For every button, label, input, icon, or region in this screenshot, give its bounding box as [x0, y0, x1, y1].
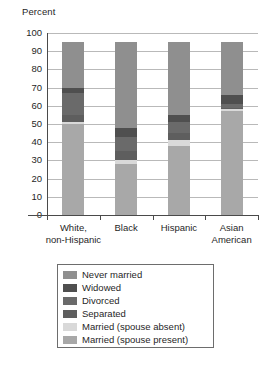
bar-segment	[221, 42, 243, 95]
bar-segment	[115, 151, 137, 160]
legend-label: Married (spouse absent)	[82, 321, 185, 332]
y-tick-label: 50	[18, 119, 42, 129]
x-tick-mark	[100, 216, 101, 220]
bar-segment	[221, 111, 243, 215]
bar-segment	[62, 115, 84, 122]
y-tick-label: 20	[18, 174, 42, 184]
legend-item: Widowed	[63, 281, 213, 294]
legend-label: Separated	[82, 308, 126, 319]
x-category-label: AsianAmerican	[189, 222, 275, 245]
bar-black	[115, 33, 137, 215]
bar-asian-american	[221, 33, 243, 215]
bar-segment	[62, 124, 84, 215]
bar-segment	[168, 42, 190, 115]
y-tick-label: 100	[18, 28, 42, 38]
bar-hispanic	[168, 33, 190, 215]
plot-area	[47, 33, 258, 215]
y-tick-label: 60	[18, 101, 42, 111]
legend-item: Divorced	[63, 294, 213, 307]
bar-segment	[168, 146, 190, 215]
y-tick-label: 10	[18, 192, 42, 202]
legend-item: Separated	[63, 307, 213, 320]
chart-legend: Never marriedWidowedDivorcedSeparatedMar…	[57, 264, 214, 348]
legend-label: Married (spouse present)	[82, 334, 188, 345]
bar-segment	[221, 95, 243, 104]
bar-segment	[115, 42, 137, 128]
legend-swatch	[63, 323, 77, 331]
y-tick-label: 90	[18, 46, 42, 56]
bar-segment	[168, 115, 190, 122]
bar-white-non-hispanic	[62, 33, 84, 215]
x-tick-mark	[47, 216, 48, 220]
legend-swatch	[63, 284, 77, 292]
x-category-label-line: American	[189, 234, 275, 246]
legend-swatch	[63, 271, 77, 279]
legend-item: Married (spouse present)	[63, 333, 213, 346]
y-axis-title: Percent	[22, 6, 55, 17]
x-category-label-line: Asian	[189, 222, 275, 234]
bar-segment	[62, 93, 84, 115]
bar-segment	[168, 122, 190, 133]
y-tick-label: 70	[18, 83, 42, 93]
stacked-bar-chart: Percent 1009080706050403020100 White,non…	[0, 0, 276, 370]
legend-swatch	[63, 336, 77, 344]
x-category-label-line: non-Hispanic	[30, 234, 116, 246]
legend-item: Never married	[63, 268, 213, 281]
x-tick-mark	[153, 216, 154, 220]
legend-label: Divorced	[82, 295, 120, 306]
legend-swatch	[63, 310, 77, 318]
legend-label: Never married	[82, 269, 142, 280]
x-axis-line	[28, 215, 259, 216]
legend-swatch	[63, 297, 77, 305]
bar-segment	[115, 128, 137, 137]
y-tick-label: 40	[18, 137, 42, 147]
bar-segment	[115, 137, 137, 152]
legend-item: Married (spouse absent)	[63, 320, 213, 333]
legend-label: Widowed	[82, 282, 121, 293]
x-tick-mark	[205, 216, 206, 220]
y-tick-label: 30	[18, 155, 42, 165]
bar-segment	[168, 133, 190, 140]
y-tick-label: 80	[18, 64, 42, 74]
bar-segment	[115, 164, 137, 215]
x-tick-mark	[258, 216, 259, 220]
bar-segment	[62, 42, 84, 88]
